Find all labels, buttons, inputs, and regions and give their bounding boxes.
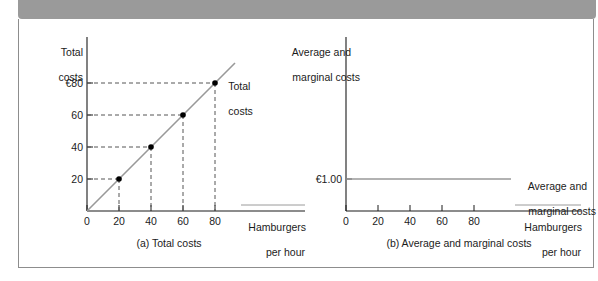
chart-a-y-ticks: [87, 83, 93, 179]
chart-b-x-tick-40: 40: [398, 215, 422, 228]
chart-a-x-tick-0: 0: [75, 215, 99, 228]
chart-a-curve-label: Total costs: [205, 67, 265, 130]
chart-b-caption: (b) Average and marginal costs: [339, 237, 579, 250]
data-point: [116, 176, 122, 182]
chart-a-y-tick-40: 40: [47, 141, 83, 154]
chart-b-x-tick-80: 80: [462, 215, 486, 228]
chart-a-y-tick-20: 20: [47, 173, 83, 186]
chart-b-x-ticks: [346, 205, 474, 211]
data-point: [148, 144, 154, 150]
chart-a-x-axis-title-line1: Hamburgers: [248, 221, 306, 233]
figure-panel: Total costs €80 60 40 20 0 20 40 60 80 H…: [18, 19, 594, 268]
chart-a-curve-label-line1: Total: [228, 80, 250, 92]
chart-a-curve-label-line2: costs: [228, 105, 253, 117]
data-point: [180, 112, 186, 118]
chart-b-y-tick-label: €1.00: [296, 173, 342, 186]
chart-a-x-tick-80: 80: [203, 215, 227, 228]
chart-a-x-tick-20: 20: [107, 215, 131, 228]
chart-b-y-axis-title: Average and marginal costs: [269, 33, 342, 96]
chart-b-curve-label-line2: marginal costs: [528, 205, 596, 217]
chart-panel-b: Average and marginal costs €1.00 0 20 40…: [319, 19, 595, 268]
chart-a-caption: (a) Total costs: [59, 237, 279, 250]
chart-a-x-tick-40: 40: [139, 215, 163, 228]
chart-a-y-tick-80: €80: [47, 77, 83, 90]
chart-b-curve-label-line1: Average and: [528, 180, 587, 192]
chart-b-y-axis-title-line1: Average and: [292, 46, 351, 58]
chart-b-y-axis-title-line2: marginal costs: [292, 71, 360, 83]
chart-a-x-tick-60: 60: [171, 215, 195, 228]
figure-root: Total costs €80 60 40 20 0 20 40 60 80 H…: [0, 0, 598, 281]
chart-a-y-axis-title-line1: Total: [61, 46, 83, 58]
chart-b-x-tick-20: 20: [366, 215, 390, 228]
chart-b-x-tick-0: 0: [334, 215, 358, 228]
chart-b-x-tick-60: 60: [430, 215, 454, 228]
page-header-bar: [18, 0, 596, 19]
chart-b-curve-label: Average and marginal costs: [505, 167, 585, 230]
chart-a-y-tick-60: 60: [47, 109, 83, 122]
